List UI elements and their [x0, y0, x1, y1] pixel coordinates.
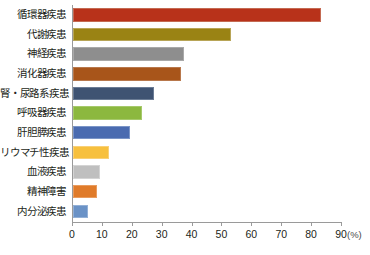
x-tick [162, 222, 163, 226]
x-axis-line [72, 222, 342, 223]
category-label: 精神障害 [0, 182, 66, 202]
bar [73, 146, 109, 159]
bar-row: 消化器疾患 [0, 64, 370, 84]
x-tick [132, 222, 133, 226]
bar-row: 精神障害 [0, 182, 370, 202]
category-label: 消化器疾患 [0, 64, 66, 84]
x-tick [72, 222, 73, 226]
horizontal-bar-chart: 循環器疾患代謝疾患神経疾患消化器疾患腎・尿路系疾患呼吸器疾患肝胆膵疾患リウマチ性… [0, 0, 370, 255]
x-tick [102, 222, 103, 226]
bar-row: 肝胆膵疾患 [0, 123, 370, 143]
category-label: 肝胆膵疾患 [0, 123, 66, 143]
bar-row: 腎・尿路系疾患 [0, 84, 370, 104]
bar [73, 8, 321, 21]
category-label: 内分泌疾患 [0, 202, 66, 222]
x-tick [281, 222, 282, 226]
bar [73, 185, 97, 198]
category-label: 呼吸器疾患 [0, 103, 66, 123]
x-tick [251, 222, 252, 226]
bar-row: 内分泌疾患 [0, 202, 370, 222]
category-label: 神経疾患 [0, 44, 66, 64]
x-axis-unit-label: (%) [347, 229, 362, 240]
x-tick [221, 222, 222, 226]
bar [73, 67, 181, 80]
bar [73, 28, 231, 41]
bar [73, 106, 142, 119]
bar-row: 神経疾患 [0, 44, 370, 64]
bar-row: 血液疾患 [0, 162, 370, 182]
bar-row: 呼吸器疾患 [0, 103, 370, 123]
x-tick [192, 222, 193, 226]
plot-area: 循環器疾患代謝疾患神経疾患消化器疾患腎・尿路系疾患呼吸器疾患肝胆膵疾患リウマチ性… [0, 0, 370, 255]
bar [73, 165, 100, 178]
bar-row: 循環器疾患 [0, 5, 370, 25]
bar [73, 205, 88, 218]
bar-row: 代謝疾患 [0, 25, 370, 45]
bar-row: リウマチ性疾患 [0, 143, 370, 163]
category-label: 腎・尿路系疾患 [0, 84, 66, 104]
category-label: 循環器疾患 [0, 5, 66, 25]
category-label: 血液疾患 [0, 162, 66, 182]
bar [73, 87, 154, 100]
category-label: 代謝疾患 [0, 25, 66, 45]
bar [73, 47, 184, 60]
category-label: リウマチ性疾患 [0, 143, 66, 163]
x-tick [341, 222, 342, 226]
bar [73, 126, 130, 139]
x-tick [311, 222, 312, 226]
